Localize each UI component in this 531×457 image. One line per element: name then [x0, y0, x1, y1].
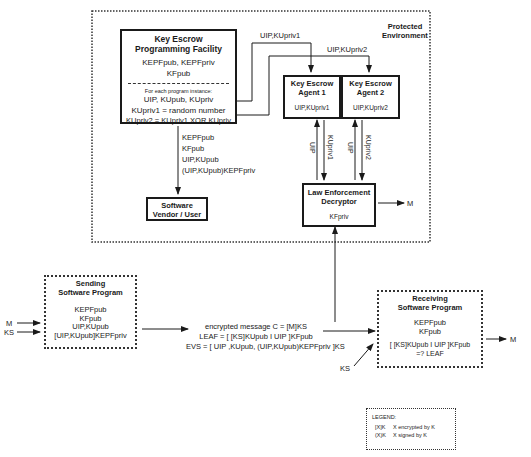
protected-environment-label: Protected Environment: [382, 23, 428, 40]
sender-input-ks: KS: [4, 328, 14, 337]
receiver-input-ks: KS: [340, 364, 350, 373]
kepf-title: Key Escrow Programming Facility: [122, 34, 235, 54]
connector-lines: [0, 0, 531, 457]
agent2-box: Key Escrow Agent 2 UIP,KUpriv2: [341, 75, 400, 119]
agent2-kupriv-label: KUpriv2: [365, 135, 372, 160]
receiver-output-m: M: [510, 335, 516, 344]
vendor-flow-labels: KEPFpub KFpub UIP,KUpub (UIP,KUpub)KEPFp…: [182, 132, 255, 176]
agent1-uip-label: UIP: [309, 142, 316, 154]
agent1-flow-label: UIP,KUpriv1: [260, 31, 300, 40]
vendor-box: Software Vendor / User: [146, 197, 208, 221]
legend-box: LEGEND: [X]KX encrypted by K (X)KX signe…: [366, 408, 456, 450]
agent1-box: Key Escrow Agent 1 UIP,KUpriv1: [283, 75, 341, 119]
kepf-box: Key Escrow Programming Facility KEPFpub,…: [120, 29, 237, 124]
sender-box: Sending Software Program KEPFpub KFpub U…: [44, 275, 137, 349]
kepf-divider: [128, 83, 229, 84]
agent2-flow-label: UIP,KUpriv2: [327, 45, 367, 54]
decryptor-box: Law Enforcement Decryptor KFpriv: [302, 183, 376, 227]
receiver-box: Receiving Software Program KEPFpub KFpub…: [377, 290, 483, 368]
decryptor-output-label: M: [407, 199, 413, 208]
kepf-instance-caption: For each program instance:: [122, 87, 235, 95]
agent2-uip-label: UIP: [347, 142, 354, 154]
kepf-keys: KEPFpub, KEPFpriv KFpub: [122, 58, 235, 79]
sender-input-m: M: [6, 319, 12, 328]
kepf-instance-keys: UIP, KUpub, KUpriv KUpriv1 = random numb…: [122, 95, 235, 127]
agent1-kupriv-label: KUpriv1: [327, 135, 334, 160]
message-block: encrypted message C = [M]KS LEAF = [ [KS…: [186, 322, 326, 352]
